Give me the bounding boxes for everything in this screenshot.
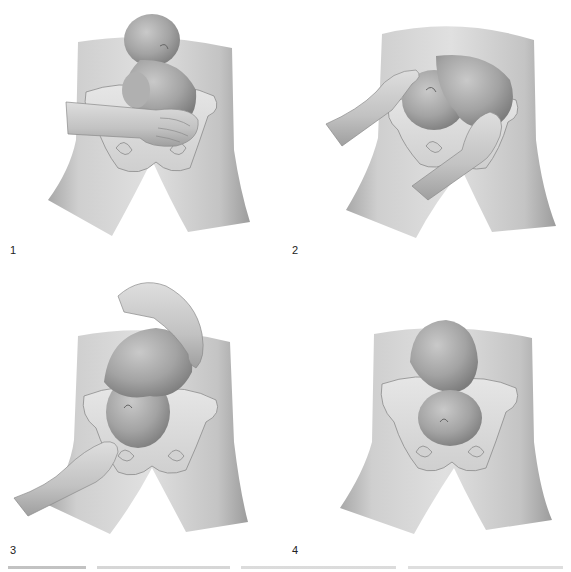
figure-panel-2: 2 <box>286 0 571 270</box>
cephalic-presentation-illustration <box>286 272 571 557</box>
figure-panel-1: 1 <box>0 0 285 270</box>
panel-number: 1 <box>10 244 16 256</box>
figure-caption-clipped <box>8 566 563 572</box>
panel-number: 3 <box>10 544 16 556</box>
panel-number: 2 <box>292 244 298 256</box>
figure-panel-4: 4 <box>286 272 571 557</box>
forward-roll-illustration <box>0 272 285 557</box>
figure-panel-3: 3 <box>0 272 285 557</box>
panel-number: 4 <box>292 544 298 556</box>
fetal-rotation-illustration <box>286 0 571 270</box>
breech-lift-illustration <box>0 0 285 270</box>
